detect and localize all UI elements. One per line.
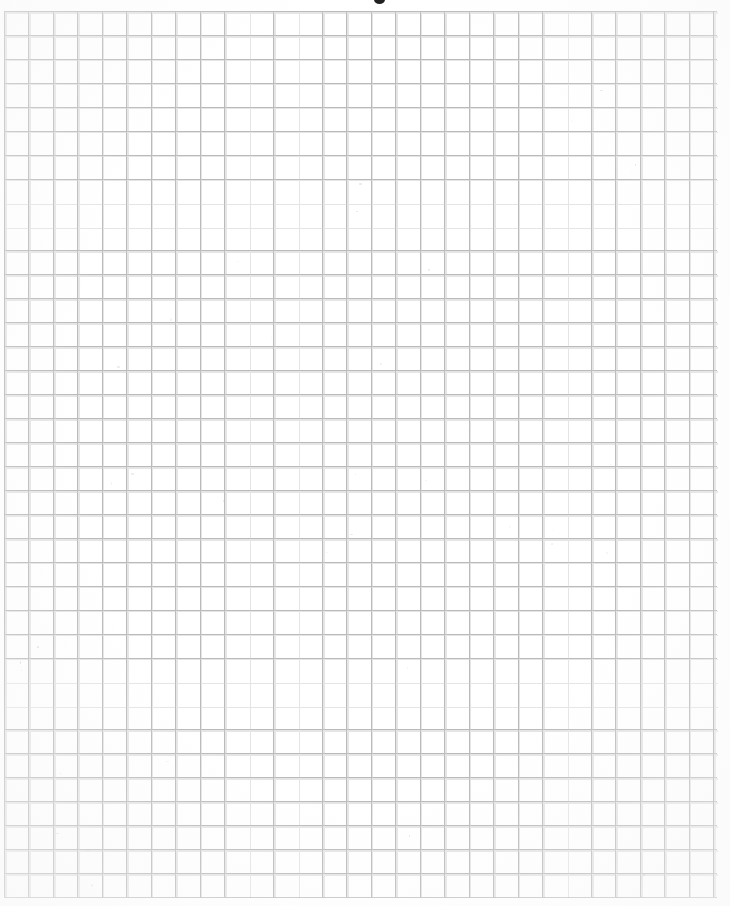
document-page — [0, 0, 730, 906]
top-cropped-glyph-mark — [374, 0, 385, 4]
grid-right-edge-rule — [713, 11, 714, 897]
grid-bottom-edge-rule — [4, 897, 717, 898]
grid-paper-sheet — [0, 0, 730, 906]
grid-ruling-lines-blur — [5, 12, 718, 898]
